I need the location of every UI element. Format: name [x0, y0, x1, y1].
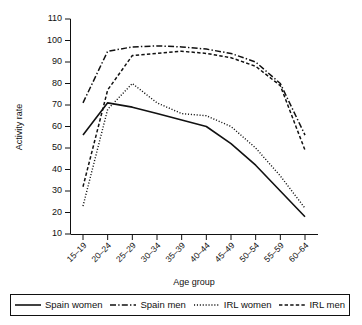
series-line-spain-men	[83, 46, 305, 135]
y-tick-label: 110	[48, 13, 62, 23]
y-tick-label: 80	[52, 78, 62, 88]
axes	[71, 19, 319, 235]
legend-swatch-dashed-icon	[279, 300, 305, 310]
x-tick-label: 25–29	[114, 240, 138, 264]
y-tick-label: 40	[52, 164, 62, 174]
x-tick-label: 40–44	[188, 240, 212, 264]
series-lines	[83, 46, 305, 217]
series-line-irl-women	[83, 84, 305, 209]
y-tick-label: 50	[52, 142, 62, 152]
legend-swatch-solid-icon	[15, 300, 41, 310]
y-tick-label: 100	[47, 35, 62, 45]
legend-item-irl-men[interactable]: IRL men	[279, 300, 345, 310]
legend-swatch-dotted-icon	[194, 300, 220, 310]
x-tick-label: 35–39	[163, 240, 187, 264]
chart-plot-container: 102030405060708090100110 15–1920–2425–29…	[0, 0, 362, 290]
x-axis-title: Age group	[173, 277, 215, 287]
x-tick-label: 50–54	[237, 240, 261, 264]
y-tick-label: 90	[52, 56, 62, 66]
series-line-spain-women	[83, 103, 305, 217]
activity-rate-line-chart: 102030405060708090100110 15–1920–2425–29…	[0, 0, 362, 290]
y-tick-label: 30	[52, 185, 62, 195]
legend-item-spain-women[interactable]: Spain women	[15, 300, 103, 310]
x-tick-label: 30–34	[139, 240, 163, 264]
legend-label: Spain women	[45, 300, 103, 310]
legend-label: IRL women	[224, 300, 272, 310]
x-tick-label: 55–59	[262, 240, 286, 264]
legend-label: Spain men	[140, 300, 185, 310]
y-axis-title: Activity rate	[14, 104, 24, 151]
x-tick-label: 60–64	[287, 240, 311, 264]
x-axis-ticks: 15–1920–2425–2930–3435–3940–4445–4950–54…	[65, 235, 311, 265]
x-tick-label: 15–19	[65, 240, 89, 264]
y-axis-ticks: 102030405060708090100110	[47, 13, 71, 238]
x-tick-label: 20–24	[89, 240, 113, 264]
chart-legend: Spain womenSpain menIRL womenIRL men	[10, 294, 350, 316]
y-tick-label: 20	[52, 207, 62, 217]
legend-item-irl-women[interactable]: IRL women	[194, 300, 272, 310]
legend-swatch-dash-dot-icon	[110, 300, 136, 310]
x-tick-label: 45–49	[213, 240, 237, 264]
y-tick-label: 70	[52, 99, 62, 109]
chart-figure: 102030405060708090100110 15–1920–2425–29…	[0, 0, 362, 325]
legend-label: IRL men	[309, 300, 345, 310]
y-tick-label: 60	[52, 121, 62, 131]
y-tick-label: 10	[52, 228, 62, 238]
legend-item-spain-men[interactable]: Spain men	[110, 300, 185, 310]
